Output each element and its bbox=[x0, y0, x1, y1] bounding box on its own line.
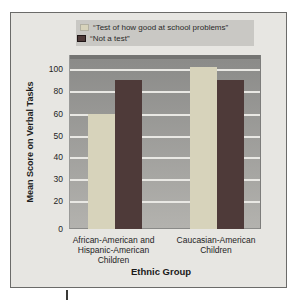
bar-diagnostic-group1 bbox=[88, 114, 115, 229]
legend-entry-not-a-test: “Not a test” bbox=[77, 33, 254, 44]
category-label-group1: African-American andHispanic-AmericanChi… bbox=[59, 235, 169, 265]
ytick-label-0: 0 bbox=[25, 224, 63, 234]
plot-area bbox=[69, 55, 261, 229]
ytick-label-60: 60 bbox=[25, 109, 63, 119]
ytick-label-20: 20 bbox=[25, 196, 63, 206]
gridline-100 bbox=[70, 69, 260, 71]
ytick-label-100: 100 bbox=[25, 64, 63, 74]
category-label-line: Caucasian-American bbox=[161, 235, 271, 245]
bar-not-a-test-group2 bbox=[217, 80, 244, 229]
category-label-group2: Caucasian-AmericanChildren bbox=[161, 235, 271, 255]
category-label-line: Children bbox=[161, 245, 271, 255]
figure-page: “Test of how good at school problems” “N… bbox=[0, 0, 294, 300]
category-label-line: Children bbox=[59, 255, 169, 265]
category-label-line: African-American and bbox=[59, 235, 169, 245]
ytick-label-80: 80 bbox=[25, 86, 63, 96]
ytick-label-50: 50 bbox=[25, 131, 63, 141]
chart-panel: “Test of how good at school problems” “N… bbox=[10, 12, 287, 288]
scan-artifact-line bbox=[66, 290, 68, 300]
x-axis-title: Ethnic Group bbox=[86, 266, 236, 277]
category-label-line: Hispanic-American bbox=[59, 245, 169, 255]
legend-swatch-not-a-test bbox=[77, 35, 86, 42]
legend: “Test of how good at school problems” “N… bbox=[76, 20, 254, 46]
ytick-label-40: 40 bbox=[25, 152, 63, 162]
plot-top-edge bbox=[70, 55, 260, 59]
legend-entry-diagnostic-test: “Test of how good at school problems” bbox=[80, 22, 254, 33]
legend-label-diagnostic-test: “Test of how good at school problems” bbox=[93, 22, 228, 33]
bar-diagnostic-group2 bbox=[190, 67, 217, 229]
ytick-label-30: 30 bbox=[25, 174, 63, 184]
legend-label-not-a-test: “Not a test” bbox=[90, 33, 130, 44]
bar-not-a-test-group1 bbox=[115, 80, 142, 229]
legend-swatch-diagnostic-test bbox=[80, 24, 89, 31]
